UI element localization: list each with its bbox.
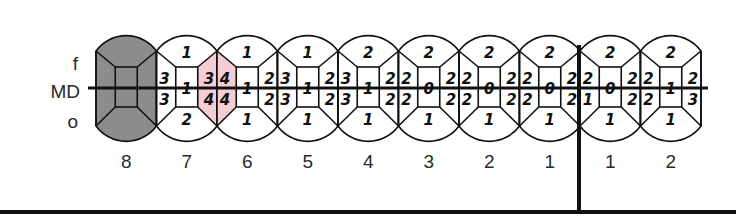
facial-value: 2 — [545, 44, 555, 62]
facial-value: 1 — [242, 44, 252, 62]
tooth-label: 6 — [242, 151, 253, 172]
oral-value: 1 — [484, 111, 494, 129]
tooth-number-labels: 8765432112 — [121, 151, 676, 172]
dental-chart: 1213334111442211133222113322210222221022… — [0, 0, 736, 220]
facial-value: 1 — [182, 44, 192, 62]
mesial-top-value: 2 — [522, 70, 532, 88]
mesial-top-value: 3 — [159, 70, 169, 88]
mesial-bottom-value: 2 — [462, 91, 472, 109]
mesial-bottom-value: 3 — [159, 91, 169, 109]
oral-value: 1 — [242, 111, 252, 129]
oral-value: 1 — [363, 111, 373, 129]
facial-value: 2 — [424, 44, 434, 62]
distal-top-value: 2 — [567, 70, 577, 88]
distal-top-value: 2 — [506, 70, 516, 88]
mesial-top-value: 3 — [341, 70, 351, 88]
oral-value: 1 — [424, 111, 434, 129]
oral-value: 1 — [303, 111, 313, 129]
distal-bottom-value: 2 — [627, 91, 637, 109]
oral-value: 1 — [545, 111, 555, 129]
oral-value: 2 — [182, 111, 192, 129]
row-label-f: f — [73, 53, 79, 74]
distal-bottom-value: 4 — [203, 91, 214, 109]
mesial-bottom-value: 4 — [219, 91, 230, 109]
mesial-top-value: 4 — [219, 70, 230, 88]
distal-bottom-value: 2 — [385, 91, 395, 109]
tooth-label: 2 — [665, 151, 676, 172]
tooth-label: 5 — [302, 151, 313, 172]
distal-bottom-value: 2 — [264, 91, 274, 109]
distal-bottom-value: 2 — [446, 91, 456, 109]
row-label-md: MD — [50, 81, 80, 102]
facial-value: 2 — [666, 44, 676, 62]
mesial-top-value: 2 — [583, 70, 593, 88]
distal-top-value: 2 — [688, 70, 698, 88]
tooth-label: 1 — [605, 151, 616, 172]
tooth-label: 3 — [423, 151, 434, 172]
mesial-bottom-value: 2 — [643, 91, 653, 109]
tooth-label: 1 — [544, 151, 555, 172]
distal-top-value: 2 — [264, 70, 274, 88]
tooth-label: 8 — [121, 151, 132, 172]
facial-value: 2 — [484, 44, 494, 62]
row-label-o: o — [67, 111, 78, 132]
distal-top-value: 2 — [627, 70, 637, 88]
mesial-top-value: 2 — [462, 70, 472, 88]
mesial-bottom-value: 1 — [583, 91, 593, 109]
distal-top-value: 2 — [325, 70, 335, 88]
mesial-bottom-value: 3 — [341, 91, 351, 109]
mesial-bottom-value: 2 — [401, 91, 411, 109]
facial-value: 2 — [605, 44, 615, 62]
mesial-bottom-value: 2 — [522, 91, 532, 109]
oral-value: 1 — [605, 111, 615, 129]
facial-value: 2 — [363, 44, 373, 62]
mesial-top-value: 2 — [643, 70, 653, 88]
distal-bottom-value: 2 — [506, 91, 516, 109]
distal-top-value: 3 — [204, 70, 214, 88]
distal-bottom-value: 3 — [688, 91, 698, 109]
distal-bottom-value: 2 — [325, 91, 335, 109]
tooth-label: 4 — [363, 151, 374, 172]
mesial-bottom-value: 3 — [280, 91, 290, 109]
distal-top-value: 2 — [446, 70, 456, 88]
tooth-label: 7 — [181, 151, 192, 172]
distal-top-value: 2 — [385, 70, 395, 88]
tooth-label: 2 — [484, 151, 495, 172]
oral-value: 1 — [666, 111, 676, 129]
facial-value: 1 — [303, 44, 313, 62]
mesial-top-value: 2 — [401, 70, 411, 88]
distal-bottom-value: 2 — [567, 91, 577, 109]
mesial-top-value: 3 — [280, 70, 290, 88]
